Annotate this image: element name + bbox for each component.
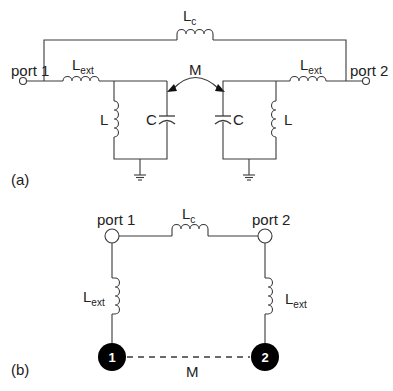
panel-a-label: (a) [11, 171, 29, 188]
lext-left-label: Lext [72, 56, 94, 76]
port2-label-b: port 2 [252, 211, 290, 228]
circuit-diagram: Lc port 1 Lext L C M [0, 0, 393, 391]
lc-label: Lc [183, 7, 196, 27]
lext-right-inductor-icon-b [265, 278, 273, 314]
left-tank-c-label: C [146, 111, 157, 128]
lext-right-inductor-icon [290, 77, 326, 82]
right-tank-c-label: C [233, 111, 244, 128]
right-ground-icon [243, 159, 255, 180]
lext-left-inductor-icon-b [112, 278, 120, 314]
left-ground-icon [134, 159, 146, 180]
port1-node-icon-b [105, 229, 119, 243]
panel-b: port 1 port 2 Lc Lext Lext M 1 2 (b) [11, 205, 307, 380]
lext-left-inductor-icon [63, 77, 99, 82]
lc-inductor-icon-b [172, 225, 208, 237]
mutual-arrowhead-left-icon [167, 84, 177, 92]
node2-label: 2 [261, 350, 268, 365]
right-tank-l-label: L [284, 111, 292, 128]
mutual-coupling-arc [173, 78, 219, 90]
panel-b-label: (b) [11, 361, 29, 378]
left-tank-inductor-icon [114, 101, 119, 137]
mutual-label-b: M [186, 363, 199, 380]
right-tank-inductor-icon [272, 101, 277, 137]
lext-left-label-b: Lext [83, 288, 105, 308]
port2-label: port 2 [350, 62, 388, 79]
left-tank-l-label: L [100, 111, 108, 128]
lc-label-b: Lc [182, 205, 195, 225]
port2-node-icon-b [258, 229, 272, 243]
port1-label-b: port 1 [97, 211, 135, 228]
node1-label: 1 [108, 350, 115, 365]
lext-right-label: Lext [300, 56, 322, 76]
left-tank-frame [114, 81, 167, 159]
mutual-label: M [189, 61, 202, 78]
port1-label: port 1 [11, 62, 49, 79]
lc-inductor-icon [177, 30, 213, 40]
panel-a: Lc port 1 Lext L C M [11, 7, 388, 188]
lext-right-label-b: Lext [285, 290, 307, 310]
